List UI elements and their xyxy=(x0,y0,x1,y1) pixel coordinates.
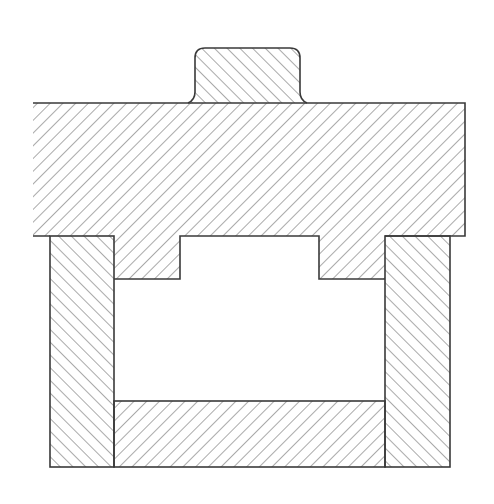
cross-section-diagram xyxy=(0,0,494,504)
left-column xyxy=(50,236,114,467)
top-tab xyxy=(188,48,307,103)
cavity xyxy=(115,280,384,400)
bottom-plate xyxy=(114,401,385,467)
right-column xyxy=(385,236,450,467)
